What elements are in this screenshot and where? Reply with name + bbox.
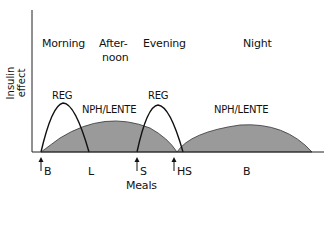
meal-label-s: S: [140, 166, 147, 178]
reg-label-morning: REG: [52, 90, 72, 102]
meal-label-b: B: [44, 166, 51, 178]
period-night: Night: [243, 38, 272, 50]
period-evening: Evening: [143, 38, 186, 50]
meal-arrow-s: [135, 157, 140, 171]
nph-lente-hump-night: [177, 125, 312, 152]
meal-label-hs: HS: [177, 166, 192, 178]
meal-label-b-next: B: [243, 166, 250, 178]
period-morning: Morning: [42, 38, 85, 50]
meal-label-l: L: [88, 166, 94, 178]
period-afternoon-line2: noon: [102, 52, 129, 64]
nph-lente-label-night: NPH/LENTE: [214, 104, 268, 116]
reg-label-evening: REG: [148, 90, 168, 102]
meal-arrow-b: [39, 157, 44, 171]
nph-lente-hump-day: [41, 121, 177, 152]
y-axis-label: Insulin effect: [5, 53, 27, 113]
nph-lente-label-day: NPH/LENTE: [82, 104, 136, 116]
meal-arrow-hs: [172, 157, 177, 171]
x-axis-label: Meals: [126, 180, 157, 192]
period-afternoon-line1: After-: [99, 38, 127, 50]
